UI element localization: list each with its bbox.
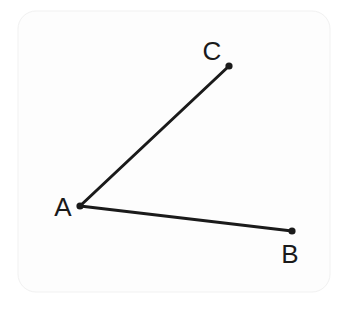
diagram-canvas: A B C bbox=[0, 0, 349, 309]
point-b-dot bbox=[288, 227, 295, 234]
point-c-dot bbox=[225, 62, 232, 69]
point-a-dot bbox=[76, 202, 83, 209]
point-a-label: A bbox=[54, 192, 72, 222]
angle-diagram-figure: A B C bbox=[0, 0, 349, 309]
point-b-label: B bbox=[281, 239, 298, 269]
point-c-label: C bbox=[203, 36, 222, 66]
